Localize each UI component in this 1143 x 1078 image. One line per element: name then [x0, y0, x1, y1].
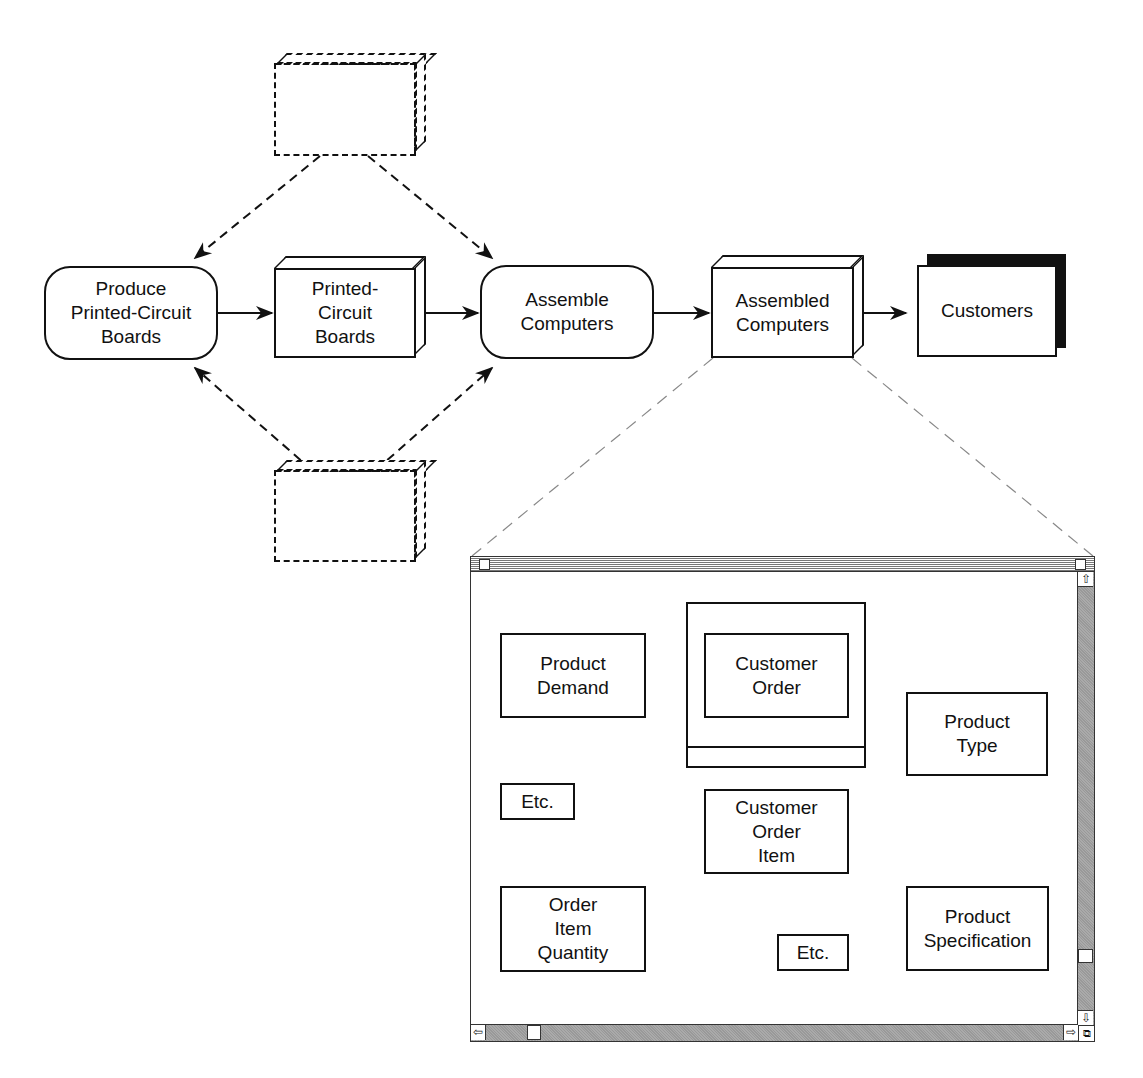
entity-customer-order[interactable]: Customer Order: [704, 633, 849, 718]
store-label: Printed- Circuit Boards: [312, 277, 379, 349]
entity-order-item-quantity[interactable]: Order Item Quantity: [500, 886, 646, 972]
associative-divider: [688, 746, 864, 748]
horizontal-scrollbar[interactable]: ⇦ ⇨: [471, 1024, 1078, 1041]
entity-customer-order-item[interactable]: Customer Order Item: [704, 789, 849, 874]
store-label: Assembled Computers: [736, 289, 830, 337]
zoom-box[interactable]: [1075, 559, 1086, 570]
entity-etc-2[interactable]: Etc.: [777, 934, 849, 971]
window-title-bar[interactable]: [471, 557, 1094, 572]
process-produce-printed-circuit-boards[interactable]: Produce Printed-Circuit Boards: [44, 266, 218, 360]
external-entity-label: Customers: [941, 299, 1033, 323]
entity-product-specification[interactable]: Product Specification: [906, 886, 1049, 971]
entity-etc-1[interactable]: Etc.: [500, 783, 575, 820]
vertical-scroll-thumb[interactable]: [1078, 949, 1093, 963]
scroll-down-arrow-icon[interactable]: ⇩: [1078, 1010, 1093, 1025]
store-top-face: [711, 255, 864, 267]
process-label: Assemble Computers: [521, 288, 614, 336]
scroll-right-arrow-icon[interactable]: ⇨: [1063, 1025, 1078, 1040]
process-assemble-computers[interactable]: Assemble Computers: [480, 265, 654, 359]
entity-product-demand[interactable]: Product Demand: [500, 633, 646, 718]
vertical-scrollbar[interactable]: ⇧ ⇩: [1077, 572, 1094, 1025]
scroll-up-arrow-icon[interactable]: ⇧: [1078, 572, 1093, 587]
diagram-canvas: Produce Printed-Circuit Boards Printed- …: [0, 0, 1143, 1078]
entity-product-type[interactable]: Product Type: [906, 692, 1048, 776]
store-top-face: [274, 256, 426, 268]
process-label: Produce Printed-Circuit Boards: [71, 277, 191, 349]
resize-grow-box-icon[interactable]: ⧉: [1078, 1025, 1094, 1041]
close-box[interactable]: [479, 559, 490, 570]
scroll-left-arrow-icon[interactable]: ⇦: [471, 1025, 486, 1040]
horizontal-scroll-thumb[interactable]: [527, 1025, 541, 1040]
